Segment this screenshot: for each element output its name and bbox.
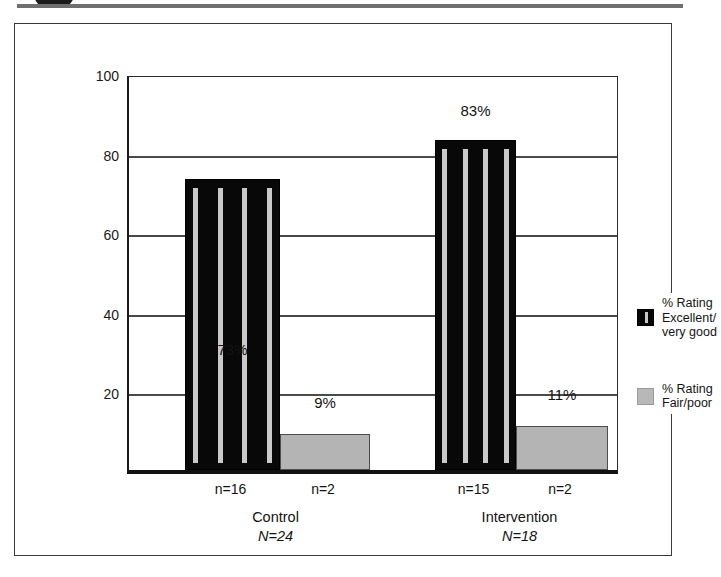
gridline-80 bbox=[129, 156, 617, 158]
group-name-control: Control bbox=[252, 509, 299, 525]
legend-item-excellent[interactable]: % Rating Excellent/ very good bbox=[637, 293, 721, 343]
group-name-intervention: Intervention bbox=[482, 509, 558, 525]
y-tick-80: 80 bbox=[75, 149, 119, 163]
group-total-control: N=24 bbox=[183, 527, 368, 546]
count-label-intervention-fairpoor: n=2 bbox=[514, 482, 606, 497]
bar-label-intervention-excellent: 83% bbox=[435, 103, 516, 119]
header-rule bbox=[17, 4, 683, 8]
bar-intervention-fairpoor[interactable] bbox=[516, 426, 608, 470]
legend-swatch-gray-icon bbox=[637, 388, 654, 405]
plot-area: 73% 9% 83% 11% % Rating Excellent/ very … bbox=[127, 76, 618, 474]
bar-stripe-pattern bbox=[193, 188, 271, 463]
bar-control-fairpoor[interactable] bbox=[280, 434, 370, 470]
y-tick-20: 20 bbox=[75, 387, 119, 401]
y-tick-40: 40 bbox=[75, 308, 119, 322]
chart-legend: % Rating Excellent/ very good % Rating F… bbox=[637, 293, 721, 414]
y-axis-tick-labels: 100 80 60 40 20 bbox=[67, 76, 119, 474]
legend-label-fairpoor: % Rating Fair/poor bbox=[662, 382, 713, 411]
figure-frame: 100 80 60 40 20 73% 9% 83% 11% bbox=[14, 23, 672, 556]
bar-control-excellent[interactable] bbox=[185, 179, 280, 470]
group-caption-intervention: Intervention N=18 bbox=[433, 508, 606, 546]
legend-label-excellent: % Rating Excellent/ very good bbox=[662, 296, 717, 340]
bar-label-intervention-fairpoor: 11% bbox=[516, 387, 608, 403]
bar-intervention-excellent[interactable] bbox=[435, 140, 516, 470]
y-tick-100: 100 bbox=[75, 69, 119, 83]
count-label-control-excellent: n=16 bbox=[183, 482, 278, 497]
bar-label-control-excellent: 73% bbox=[185, 342, 280, 358]
count-label-control-fairpoor: n=2 bbox=[278, 482, 368, 497]
group-caption-control: Control N=24 bbox=[183, 508, 368, 546]
y-tick-60: 60 bbox=[75, 228, 119, 242]
count-label-intervention-excellent: n=15 bbox=[433, 482, 514, 497]
bar-label-control-fairpoor: 9% bbox=[280, 395, 370, 411]
legend-item-fairpoor[interactable]: % Rating Fair/poor bbox=[637, 379, 721, 414]
legend-swatch-striped-icon bbox=[637, 309, 654, 326]
bar-stripe-pattern bbox=[442, 149, 508, 463]
group-total-intervention: N=18 bbox=[433, 527, 606, 546]
